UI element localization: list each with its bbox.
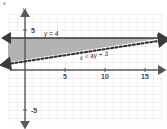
y-tick-label-5: 5 (31, 27, 35, 34)
x-tick-label-15: 15 (141, 73, 149, 80)
x-tick-label-5: 5 (63, 73, 67, 80)
coordinate-plane: y x 5 -5 5 10 15 y = 4 x = 4y + 3 (0, 0, 167, 129)
y-axis-label: y (21, 6, 26, 14)
y-tick-label-minus-5: -5 (31, 107, 37, 114)
coordinate-graph-figure: y x 5 -5 5 10 15 y = 4 x = 4y + 3 (0, 0, 167, 129)
x-tick-label-10: 10 (101, 73, 109, 80)
line-label-y-equals-4: y = 4 (43, 30, 59, 38)
